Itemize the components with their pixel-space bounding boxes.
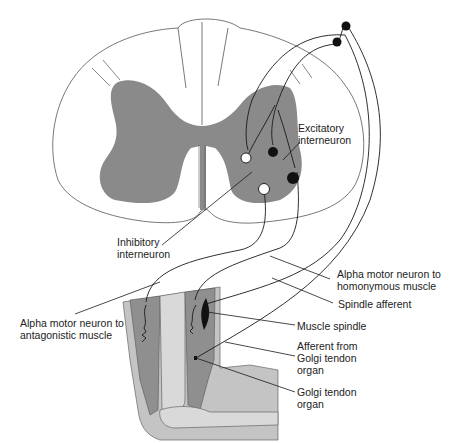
label-excitatory-interneuron: Excitatory interneuron [298, 122, 351, 146]
dorsal-root-ganglion-1 [342, 22, 351, 31]
label-alpha-antagonistic: Alpha motor neuron to antagonistic muscl… [20, 317, 127, 341]
inhibitory-interneuron-cell [241, 153, 251, 163]
label-alpha-homonymous: Alpha motor neuron to homonymous muscle [337, 268, 444, 292]
dorsal-root-ganglion-2 [333, 38, 342, 47]
antagonist-motor-neuron-cell [259, 184, 270, 195]
excitatory-interneuron-cell [268, 147, 278, 157]
label-inhibitory-interneuron: Inhibitory interneuron [117, 236, 170, 260]
label-muscle-spindle: Muscle spindle [297, 320, 367, 332]
bone [160, 292, 185, 411]
label-golgi-tendon-organ: Golgi tendon organ [297, 386, 359, 410]
label-afferent-gto: Afferent from Golgi tendon organ [297, 340, 360, 376]
label-spindle-afferent: Spindle afferent [338, 298, 411, 310]
homonymous-motor-neuron-cell [287, 172, 299, 184]
limb [123, 287, 278, 440]
reflex-diagram: Excitatory interneuron Inhibitory intern… [0, 0, 454, 443]
